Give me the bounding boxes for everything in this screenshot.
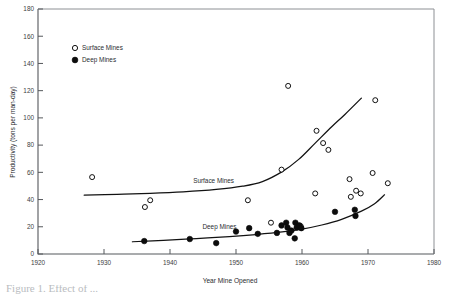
- deep-mine-point: [213, 240, 219, 246]
- y-axis-title: Productivity (tons per man-day): [9, 86, 17, 178]
- y-tick-label: 0: [30, 250, 34, 257]
- surface-mine-point: [326, 147, 331, 152]
- surface-mine-point: [90, 175, 95, 180]
- legend-marker-surface-mines: [72, 45, 77, 50]
- surface-mine-point: [279, 167, 284, 172]
- legend-label: Deep Mines: [82, 56, 116, 64]
- x-tick-label: 1980: [427, 259, 442, 266]
- x-tick-label: 1920: [31, 259, 46, 266]
- figure-caption: Figure 1. Effect of ...: [6, 285, 98, 294]
- surface-mine-point: [268, 220, 273, 225]
- legend-label: Surface Mines: [82, 44, 123, 51]
- deep-mine-point: [289, 228, 295, 234]
- deep-mine-point: [274, 230, 280, 236]
- curve-annotations: Surface MinesDeep Mines: [193, 177, 236, 231]
- x-tick-label: 1960: [295, 259, 310, 266]
- surface-mine-point: [142, 205, 147, 210]
- curve-label: Deep Mines: [202, 223, 236, 231]
- surface-mine-point: [321, 141, 326, 146]
- surface-mine-point: [358, 191, 363, 196]
- y-tick-label: 60: [27, 169, 35, 176]
- y-tick-label: 140: [23, 60, 34, 67]
- x-tick-label: 1940: [163, 259, 178, 266]
- y-tick-label: 180: [23, 5, 34, 12]
- productivity-scatter-chart: 020406080100120140160180 192019301940195…: [0, 0, 453, 295]
- x-tick-label: 1970: [361, 259, 376, 266]
- x-axis-ticks: 1920193019401950196019701980: [31, 249, 442, 266]
- chart-legend: Surface MinesDeep Mines: [72, 44, 123, 64]
- y-tick-label: 80: [27, 141, 35, 148]
- deep-mine-point: [353, 213, 359, 219]
- deep-mine-point: [352, 207, 358, 213]
- deep-mine-point: [246, 225, 252, 231]
- y-tick-label: 100: [23, 114, 34, 121]
- surface-mine-point: [148, 198, 153, 203]
- surface-mine-point: [348, 194, 353, 199]
- surface-mine-point: [373, 98, 378, 103]
- surface-mine-point: [385, 181, 390, 186]
- data-points: [90, 83, 391, 246]
- x-tick-label: 1950: [229, 259, 244, 266]
- legend-marker-deep-mines: [72, 57, 78, 63]
- surface-mine-point: [286, 83, 291, 88]
- trend-curves: [84, 98, 384, 242]
- curve-label: Surface Mines: [193, 177, 234, 184]
- y-axis-ticks: 020406080100120140160180: [23, 5, 43, 257]
- y-tick-label: 160: [23, 33, 34, 40]
- surface-mine-point: [313, 191, 318, 196]
- y-tick-label: 40: [27, 196, 35, 203]
- y-tick-label: 20: [27, 223, 35, 230]
- figure-caption-strip: Figure 1. Effect of ...: [0, 285, 453, 295]
- surface-mine-point: [314, 128, 319, 133]
- deep-mine-point: [299, 225, 305, 231]
- surface-mine-point: [370, 171, 375, 176]
- x-axis-title: Year Mine Opened: [203, 277, 258, 285]
- deep-mine-point: [255, 231, 261, 237]
- deep-mine-point: [292, 236, 298, 242]
- surface-mine-point: [347, 177, 352, 182]
- x-tick-label: 1930: [97, 259, 112, 266]
- figure-container: 020406080100120140160180 192019301940195…: [0, 0, 453, 295]
- deep-mine-point: [141, 238, 147, 244]
- surface-mine-point: [354, 188, 359, 193]
- deep-mine-point: [187, 236, 193, 242]
- deep-mine-point: [332, 209, 338, 215]
- y-tick-label: 120: [23, 87, 34, 94]
- surface-mine-point: [245, 198, 250, 203]
